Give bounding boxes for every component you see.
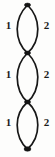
edge-bigon-middle-right	[28, 53, 38, 102]
edge-bigon-top-left	[17, 5, 27, 53]
bigon-middle	[17, 53, 38, 102]
label-bigon-middle-right: 2	[41, 69, 52, 80]
graph-diagram-figure: 1 2 1 2 1 2	[0, 0, 55, 157]
vertex-upper-middle-icon	[25, 51, 31, 55]
label-bigon-top-right: 2	[41, 20, 52, 31]
bigon-top	[17, 5, 38, 53]
edge-bigon-bottom-right	[28, 102, 38, 149]
vertex-top-icon	[25, 3, 31, 7]
edge-bigon-middle-left	[17, 53, 27, 102]
label-bigon-middle-left: 1	[3, 69, 14, 80]
label-bigon-top-left: 1	[3, 20, 14, 31]
bigon-bottom	[17, 102, 38, 149]
edge-bigon-bottom-left	[17, 102, 27, 149]
label-bigon-bottom-left: 1	[3, 117, 14, 128]
vertex-lower-middle-icon	[25, 100, 31, 104]
label-bigon-bottom-right: 2	[41, 117, 52, 128]
vertex-bottom-icon	[24, 147, 31, 151]
edge-bigon-top-right	[28, 5, 38, 53]
